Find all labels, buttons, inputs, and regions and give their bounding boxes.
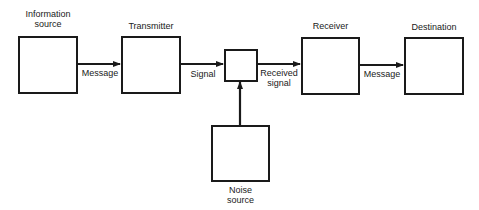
message-edge-label-1: Message bbox=[80, 68, 120, 78]
information-source-block bbox=[18, 36, 78, 94]
channel-block bbox=[224, 49, 258, 82]
destination-label: Destination bbox=[404, 22, 464, 32]
receiver-block bbox=[301, 37, 360, 95]
transmitter-block bbox=[121, 36, 181, 94]
received-signal-edge-label: Received signal bbox=[258, 68, 300, 88]
noise-source-label-line1: Noise bbox=[211, 185, 270, 195]
received-signal-line2: signal bbox=[258, 78, 300, 88]
info-source-label-line2: source bbox=[18, 19, 78, 29]
transmitter-label: Transmitter bbox=[121, 21, 181, 31]
receiver-label: Receiver bbox=[301, 21, 360, 31]
noise-source-label-line2: source bbox=[211, 195, 270, 205]
noise-source-label: Noise source bbox=[211, 185, 270, 205]
info-source-label-line1: Information bbox=[18, 9, 78, 19]
destination-block bbox=[404, 37, 464, 95]
info-source-label: Information source bbox=[18, 9, 78, 29]
received-signal-line1: Received bbox=[258, 68, 300, 78]
noise-source-block bbox=[211, 125, 270, 182]
message-edge-label-2: Message bbox=[362, 69, 402, 79]
signal-edge-label: Signal bbox=[183, 69, 223, 79]
